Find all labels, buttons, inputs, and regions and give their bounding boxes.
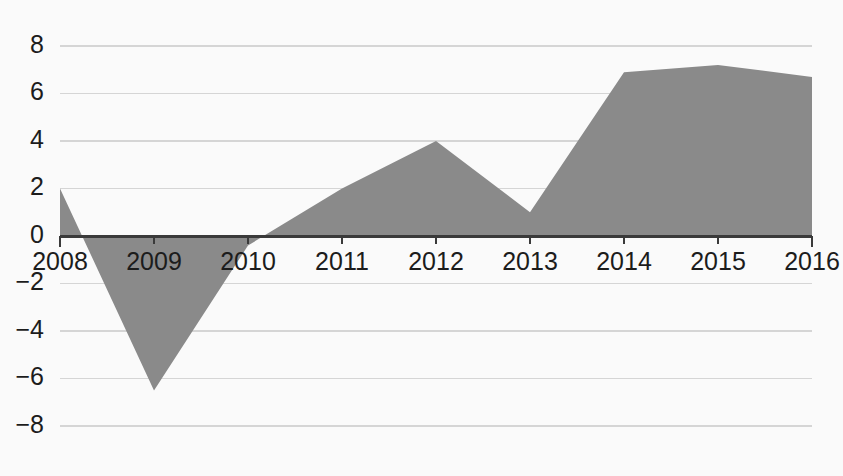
x-axis-tick-label: 2016	[784, 247, 840, 275]
x-axis-tick-label: 2011	[315, 247, 369, 275]
chart-canvas: 86420−2−4−6−8 20082009201020112012201320…	[0, 0, 843, 476]
x-axis-tick-label: 2013	[502, 247, 558, 275]
y-axis-tick-label: 8	[30, 30, 44, 58]
y-axis-tick-label: 4	[30, 125, 44, 153]
y-axis-tick-label: 6	[30, 77, 44, 105]
x-axis-tick-label: 2008	[32, 247, 88, 275]
y-axis-tick-label: −6	[15, 362, 44, 390]
area-chart-figure: 86420−2−4−6−8 20082009201020112012201320…	[0, 0, 843, 476]
x-axis-tick-labels: 200820092010201120122013201420152016	[32, 247, 840, 275]
y-axis-tick-label: −8	[15, 410, 44, 438]
x-axis-tick-label: 2014	[596, 247, 652, 275]
y-axis-tick-label: 2	[30, 172, 44, 200]
y-axis-tick-label: −4	[15, 315, 44, 343]
x-axis-tick-label: 2009	[126, 247, 182, 275]
x-axis-tick-label: 2010	[220, 247, 276, 275]
x-axis-tick-label: 2012	[408, 247, 464, 275]
y-axis-tick-label: 0	[30, 220, 44, 248]
x-axis-tick-label: 2015	[690, 247, 746, 275]
